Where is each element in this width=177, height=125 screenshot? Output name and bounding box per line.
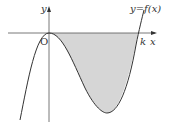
root-label: k — [140, 37, 146, 47]
curve-label: y=f(x) — [130, 4, 161, 14]
x-axis-arrow-icon — [151, 31, 157, 35]
graph-canvas — [0, 0, 177, 125]
y-axis-label: y — [41, 4, 47, 14]
x-axis-label: x — [150, 37, 156, 47]
y-axis-arrow-icon — [47, 6, 51, 12]
function-graph: y x O k y=f(x) — [0, 0, 177, 125]
origin-label: O — [40, 37, 48, 47]
shaded-region — [49, 33, 138, 113]
